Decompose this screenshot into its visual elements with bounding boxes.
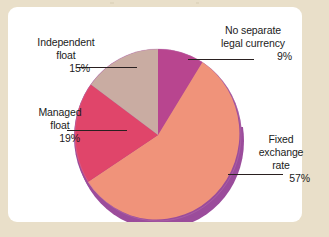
callout-line-2: exchange — [259, 146, 304, 158]
callout-line-2: legal currency — [221, 37, 285, 49]
callout-line-2: float — [56, 49, 75, 61]
callout-line-1: Independent — [37, 36, 94, 48]
chart-card: No separate legal currency 9% Independen… — [8, 7, 302, 222]
callout-line-1: Managed — [38, 106, 81, 118]
paper-speck — [110, 2, 114, 4]
callout-percent: 9% — [204, 50, 302, 63]
callout-percent: 57% — [246, 172, 316, 185]
callout-percent: 15% — [23, 62, 109, 75]
callout-line-3: rate — [272, 159, 290, 171]
page-root: No separate legal currency 9% Independen… — [0, 0, 329, 237]
callout-label-fixed-exchange-rate: Fixed exchange rate 57% — [246, 133, 316, 185]
paper-speck — [196, 2, 199, 4]
callout-label-managed-float: Managed float 19% — [20, 106, 100, 145]
callout-label-no-separate-legal-currency: No separate legal currency 9% — [204, 24, 302, 63]
callout-line-1: Fixed — [268, 133, 293, 145]
callout-percent: 19% — [20, 132, 100, 145]
callout-line-2: float — [50, 119, 69, 131]
callout-line-1: No separate — [225, 24, 281, 36]
callout-label-independent-float: Independent float 15% — [23, 36, 109, 75]
